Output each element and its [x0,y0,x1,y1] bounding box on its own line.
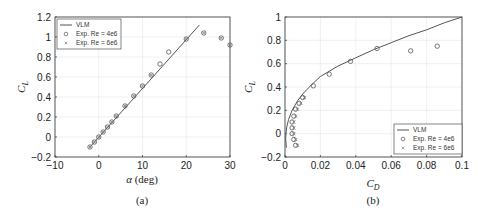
data-point-re4e6 [327,72,331,76]
y-tick-label: −0.2 [31,152,51,163]
legend-label: VLM [413,126,426,133]
y-tick-label: 0.6 [267,58,281,69]
data-point-re4e6 [158,62,162,66]
chart-caption: (b) [367,194,380,207]
data-point-re6e6 [150,73,153,76]
data-point-re6e6 [93,140,96,143]
figure: −100102030−0.200.20.40.60.811.2α (deg)CL… [0,0,481,212]
y-axis-label: CL [242,81,257,93]
x-tick-label: 20 [181,160,193,171]
y-tick-label: 0 [275,128,281,139]
legend: VLMExp. Re = 4e6Exp. Re = 6e6 [57,19,121,49]
legend: VLMExp. Re = 4e6Exp. Re = 6e6 [394,124,462,154]
chart-b: 00.020.040.060.080.1−0.200.20.40.60.81CD… [242,12,469,208]
chart-caption: (a) [136,194,149,207]
x-tick-label: 0.06 [381,160,401,171]
x-tick-label: 0.08 [417,160,437,171]
legend-label: VLM [76,21,89,28]
x-axis-label: CD [366,177,379,192]
legend-label: Exp. Re = 6e6 [76,39,118,47]
data-point-re6e6 [102,130,105,133]
data-point-re4e6 [167,50,171,54]
x-tick-label: 10 [137,160,149,171]
y-tick-label: 0.4 [37,92,51,103]
data-point-re4e6 [435,44,439,48]
y-tick-label: 0.2 [267,105,281,116]
y-tick-label: 0 [45,132,51,143]
x-tick-label: 0.1 [455,160,469,171]
data-point-re4e6 [311,84,315,88]
data-point-re6e6 [202,31,205,34]
data-point-re4e6 [408,49,412,53]
y-tick-label: 0.8 [267,35,281,46]
y-tick-label: 0.6 [37,72,51,83]
x-tick-label: 0.04 [346,160,366,171]
y-tick-label: 0.4 [267,82,281,93]
y-tick-label: 1 [45,32,51,43]
x-tick-label: 0 [96,160,102,171]
y-axis-label: CL [15,81,30,93]
legend-label: Exp. Re = 4e6 [76,30,118,38]
data-point-re6e6 [88,145,91,148]
legend-label: Exp. Re = 4e6 [413,135,455,143]
y-tick-label: 0.8 [37,52,51,63]
x-tick-label: 0.02 [311,160,331,171]
chart-a: −100102030−0.200.20.40.60.811.2α (deg)CL… [15,12,236,208]
x-tick-label: 30 [224,160,236,171]
x-axis-label: α (deg) [126,173,158,186]
y-tick-label: 0.2 [37,112,51,123]
y-tick-label: 1.2 [37,12,51,23]
legend-label: Exp. Re = 6e6 [413,144,455,152]
y-tick-label: 1 [275,12,281,23]
y-tick-label: −0.2 [261,152,281,163]
x-tick-label: 0 [282,160,288,171]
